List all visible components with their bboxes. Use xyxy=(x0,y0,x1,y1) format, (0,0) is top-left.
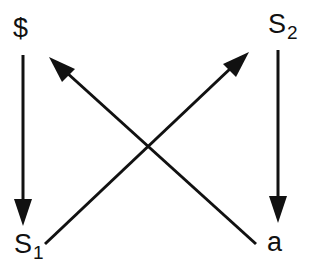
arrowhead-icon xyxy=(14,199,32,226)
node-s2: S2 xyxy=(268,11,298,42)
arrowhead-icon xyxy=(269,196,287,223)
edge-dollar-to-s1 xyxy=(14,55,32,226)
edge-a-to-dollar xyxy=(49,57,256,244)
node-dollar: $ xyxy=(13,15,28,42)
node-s1: S1 xyxy=(14,231,44,262)
node-a: a xyxy=(267,229,282,256)
node-s1-text: S xyxy=(14,229,32,259)
diagram-canvas xyxy=(0,0,311,272)
cycle-diagram: $ S2 S1 a xyxy=(0,0,311,272)
node-dollar-text: $ xyxy=(13,13,28,43)
node-s1-subscript: 1 xyxy=(33,242,44,263)
node-s2-subscript: 2 xyxy=(287,22,298,43)
edge-s2-to-a xyxy=(269,50,287,223)
node-a-text: a xyxy=(267,227,282,257)
node-s2-text: S xyxy=(268,9,286,39)
